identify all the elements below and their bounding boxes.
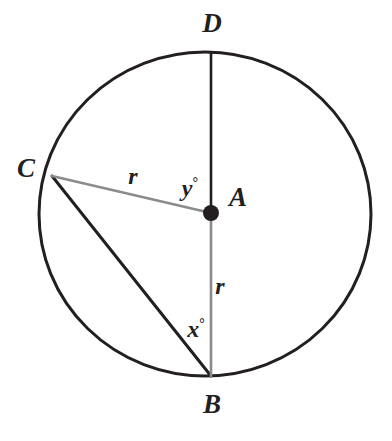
- vertex-label-b: B: [203, 391, 221, 418]
- geometry-canvas: [0, 0, 392, 441]
- angle-label-y: y°: [182, 176, 198, 200]
- radius-label-ab: r: [215, 274, 224, 298]
- angle-x-symbol: x: [187, 316, 199, 342]
- segment-chord-cb: [52, 176, 211, 376]
- angle-label-x: x°: [187, 317, 205, 341]
- vertex-label-d: D: [202, 10, 222, 37]
- vertex-label-c: C: [17, 155, 35, 182]
- center-point-dot: [203, 205, 219, 221]
- angle-y-degree-sign: °: [193, 175, 199, 190]
- geometry-figure: D C A B r r y° x°: [0, 0, 392, 441]
- angle-y-symbol: y: [182, 175, 193, 201]
- radius-label-ca: r: [128, 164, 137, 188]
- vertex-label-a: A: [229, 184, 247, 211]
- angle-x-degree-sign: °: [199, 316, 205, 331]
